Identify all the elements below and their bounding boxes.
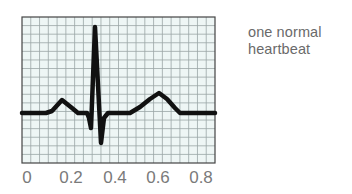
ecg-figure: one normal heartbeat 0 0.2 0.4 0.6 0.8	[0, 0, 352, 194]
x-tick-label: 0.2	[59, 168, 83, 188]
ecg-grid	[22, 17, 215, 163]
x-tick-label: 0.6	[146, 168, 170, 188]
x-tick-label: 0.4	[103, 168, 127, 188]
caption-line-2: heartbeat	[248, 41, 322, 58]
x-tick-label: 0	[22, 168, 31, 188]
x-tick-label: 0.8	[189, 168, 213, 188]
caption-line-1: one normal	[248, 24, 322, 41]
caption: one normal heartbeat	[248, 24, 322, 58]
